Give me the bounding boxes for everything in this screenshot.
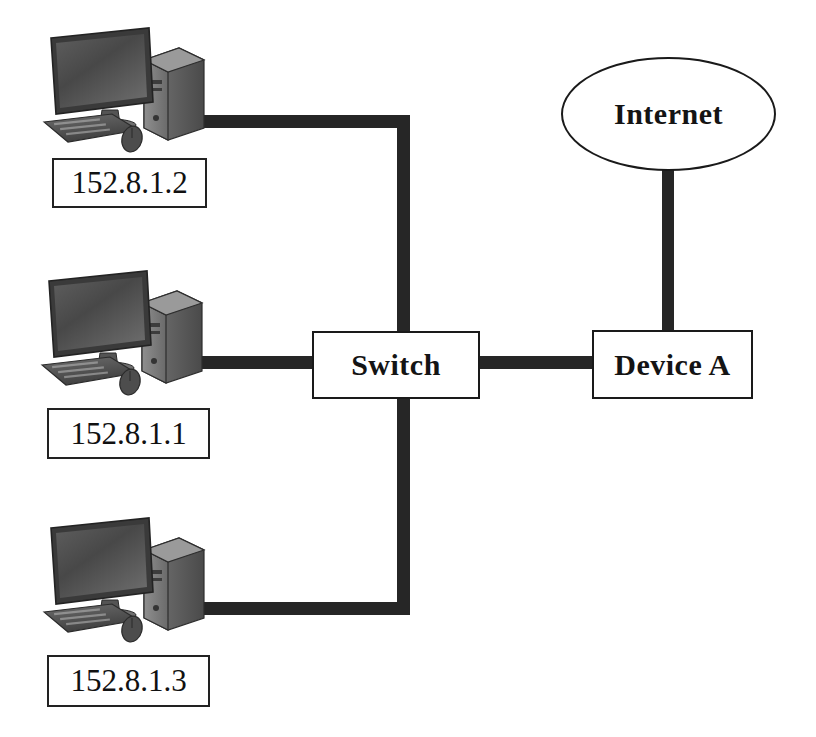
ip-address-text: 152.8.1.1 (70, 416, 186, 452)
internet-node: Internet (561, 57, 776, 171)
link-device-a-to-internet (662, 166, 674, 334)
switch-node: Switch (312, 331, 480, 399)
desktop-computer-icon (38, 265, 218, 405)
link-switch-to-device-a (476, 356, 596, 369)
ip-address-label: 152.8.1.1 (47, 408, 210, 459)
link-pc3-to-switch-horizontal (199, 602, 410, 615)
device-a-node-label: Device A (614, 348, 730, 382)
ip-address-text: 152.8.1.2 (71, 165, 187, 201)
link-pc1-to-switch-vertical (397, 115, 410, 336)
network-diagram-canvas: 152.8.1.2 152.8.1.1 152.8.1.3 Switch Dev… (0, 0, 816, 737)
desktop-computer-icon (40, 22, 220, 162)
ip-address-text: 152.8.1.3 (70, 663, 186, 699)
desktop-computer-icon (40, 512, 220, 652)
device-a-node: Device A (592, 330, 753, 399)
switch-node-label: Switch (351, 348, 441, 382)
ip-address-label: 152.8.1.3 (47, 655, 210, 707)
internet-node-label: Internet (614, 97, 723, 131)
link-pc3-to-switch-vertical (397, 394, 410, 615)
ip-address-label: 152.8.1.2 (52, 158, 207, 208)
link-pc1-to-switch-horizontal (199, 115, 410, 128)
